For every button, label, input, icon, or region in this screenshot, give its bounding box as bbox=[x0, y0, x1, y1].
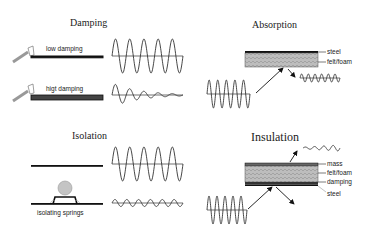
isolation-title: Isolation bbox=[72, 130, 107, 141]
high-damping-label: higt damping bbox=[46, 85, 84, 93]
absorption-title: Absorption bbox=[252, 19, 297, 30]
damping-layer bbox=[245, 182, 318, 185]
low-damping-label: low damping bbox=[46, 45, 83, 53]
steel-layer bbox=[245, 51, 318, 53]
high-damping-wave bbox=[112, 84, 183, 103]
incident-arrow bbox=[248, 187, 272, 209]
acoustic-treatment-diagram: Damping low damping higt damping Absorpt… bbox=[0, 0, 369, 241]
steel-layer bbox=[245, 185, 318, 187]
high-damping-plate bbox=[31, 95, 103, 100]
layer-label-damping: damping bbox=[327, 178, 352, 186]
hammer-icon bbox=[13, 46, 34, 62]
layer-label-felt-foam: felt/foam bbox=[327, 58, 352, 65]
reflected-arrow bbox=[276, 187, 294, 204]
isolation-panel: Isolation isolating springs bbox=[31, 130, 183, 217]
low-damping-plate bbox=[31, 56, 103, 58]
mass-ball-icon bbox=[58, 181, 72, 195]
spring-mount bbox=[53, 197, 77, 204]
transmitted-arrow bbox=[290, 151, 297, 162]
leader-line bbox=[318, 186, 326, 192]
isolated-plate bbox=[31, 203, 103, 205]
insulation-panel: Insulation mass felt/foam damping steel bbox=[207, 130, 352, 224]
rigid-plate bbox=[31, 165, 103, 167]
layer-label-felt-foam: felt/foam bbox=[327, 169, 352, 176]
isolating-springs-label: isolating springs bbox=[37, 209, 84, 217]
foam-layer bbox=[245, 166, 318, 182]
damping-panel: Damping low damping higt damping bbox=[13, 17, 183, 103]
incident-arrow bbox=[256, 68, 283, 93]
layer-label-mass: mass bbox=[327, 160, 343, 167]
layer-label-steel: steel bbox=[327, 190, 341, 197]
foam-layer bbox=[245, 53, 318, 67]
reflected-arrow bbox=[288, 69, 295, 77]
mass-layer bbox=[245, 163, 318, 166]
damping-title: Damping bbox=[70, 17, 107, 28]
layer-label-steel: steel bbox=[327, 48, 341, 55]
transmitted-wave bbox=[303, 145, 340, 150]
absorption-panel: Absorption steel felt/foam bbox=[207, 19, 352, 108]
insulation-title: Insulation bbox=[251, 130, 299, 144]
